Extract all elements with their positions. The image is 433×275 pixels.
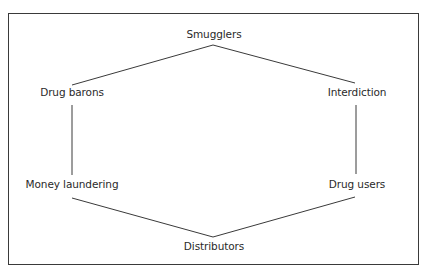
- node-drug-users: Drug users: [329, 178, 385, 190]
- node-drug-barons: Drug barons: [40, 86, 104, 98]
- edge-drug-barons-smugglers: [72, 45, 213, 85]
- edge-money-laundering-distributors: [72, 198, 213, 237]
- node-money-laundering: Money laundering: [26, 178, 119, 190]
- diagram-edges: [0, 0, 433, 275]
- node-interdiction: Interdiction: [328, 86, 387, 98]
- edge-smugglers-interdiction: [213, 45, 355, 83]
- node-distributors: Distributors: [184, 240, 244, 252]
- node-smugglers: Smugglers: [186, 28, 241, 40]
- edge-distributors-drug-users: [213, 197, 355, 237]
